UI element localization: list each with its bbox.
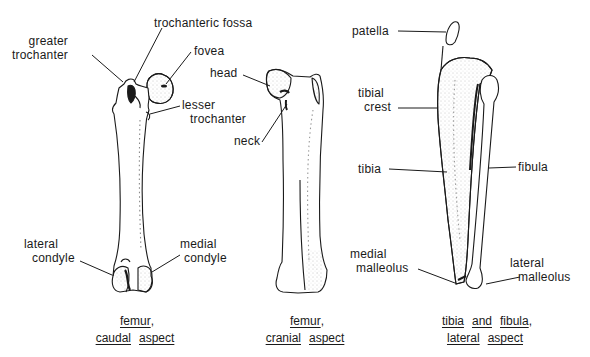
label-tibial-crest: tibial crest <box>358 86 391 114</box>
caption-word: aspect <box>139 331 174 345</box>
label-greater-trochanter: greater trochanter <box>12 34 68 62</box>
caption-line-2: caudalaspect <box>80 330 190 347</box>
bone-diagram: greater trochanter trochanteric fossa fo… <box>0 0 590 357</box>
label-head: head <box>210 66 238 80</box>
label-line: crest <box>358 100 391 114</box>
label-line: malleolus <box>510 270 571 284</box>
label-line: lesser <box>182 98 246 112</box>
caption-line-1: femur, <box>80 313 190 330</box>
caption-word: aspect <box>309 331 344 345</box>
label-line: trochanter <box>12 48 68 62</box>
femur-caudal-drawing <box>112 74 173 292</box>
caption-word: aspect <box>488 331 523 345</box>
label-line: tibial <box>358 86 391 100</box>
label-line: medial <box>180 237 227 251</box>
caption-line-2: lateralaspect <box>405 330 565 347</box>
caption-line-1: femur, <box>250 313 360 330</box>
label-lateral-malleolus: lateral malleolus <box>510 256 571 284</box>
caption-femur-cranial: femur, cranialaspect <box>250 313 360 347</box>
caption-word: femur <box>290 314 321 328</box>
label-lesser-trochanter: lesser trochanter <box>182 98 246 126</box>
label-medial-condyle: medial condyle <box>180 237 227 265</box>
caption-comma: , <box>321 314 324 328</box>
label-lateral-condyle: lateral condyle <box>24 237 75 265</box>
caption-line-1: tibiaandfibula, <box>405 313 565 330</box>
bone-illustrations <box>0 0 590 357</box>
caption-word: lateral <box>447 331 480 345</box>
label-line: lateral <box>510 256 571 270</box>
label-line: greater <box>12 34 68 48</box>
caption-word: cranial <box>266 331 301 345</box>
caption-femur-caudal: femur, caudalaspect <box>80 313 190 347</box>
caption-word: fibula <box>500 314 529 328</box>
label-line: medial <box>350 247 409 261</box>
label-patella: patella <box>352 24 389 38</box>
caption-word: caudal <box>96 331 131 345</box>
label-line: condyle <box>24 251 75 265</box>
tibia-fibula-drawing <box>438 22 499 289</box>
caption-comma: , <box>529 314 532 328</box>
label-medial-malleolus: medial malleolus <box>350 247 409 275</box>
femur-cranial-drawing <box>266 70 327 293</box>
label-line: trochanter <box>182 112 246 126</box>
caption-word: femur <box>120 314 151 328</box>
caption-word: and <box>472 314 492 328</box>
caption-comma: , <box>151 314 154 328</box>
label-tibia: tibia <box>358 162 381 176</box>
label-line: condyle <box>180 251 227 265</box>
caption-word: tibia <box>442 314 464 328</box>
caption-tibia-fibula: tibiaandfibula, lateralaspect <box>405 313 565 347</box>
label-fibula: fibula <box>518 160 548 174</box>
label-line: lateral <box>24 237 75 251</box>
label-line: malleolus <box>350 261 409 275</box>
caption-line-2: cranialaspect <box>250 330 360 347</box>
label-fovea: fovea <box>194 44 224 58</box>
label-neck: neck <box>234 134 260 148</box>
label-trochanteric-fossa: trochanteric fossa <box>154 16 252 30</box>
